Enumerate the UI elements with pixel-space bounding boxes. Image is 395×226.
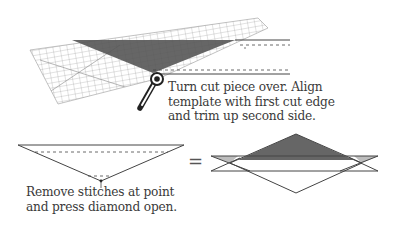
equals-sign: = (188, 150, 203, 171)
caption-line: and trim up second side. (168, 109, 335, 124)
top-step-caption: Turn cut piece over. Align template with… (168, 80, 335, 124)
bottom-step-caption: Remove stitches at point and press diamo… (26, 185, 177, 214)
pressed-diamond-icon (211, 134, 378, 193)
caption-line: and press diamond open. (26, 200, 177, 215)
stitched-triangle-icon (18, 145, 184, 188)
caption-line: template with first cut edge (168, 95, 335, 110)
caption-line: Remove stitches at point (26, 185, 177, 200)
caption-line: Turn cut piece over. Align (168, 80, 335, 95)
